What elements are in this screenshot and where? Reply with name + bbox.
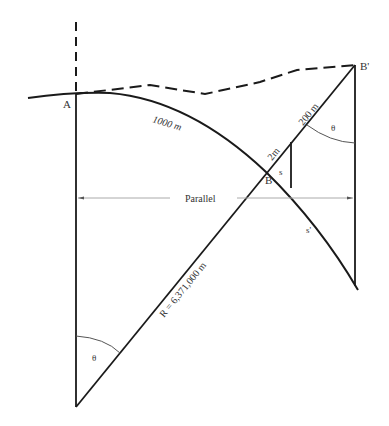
label-parallel: Parallel — [185, 193, 216, 204]
label-point-a: A — [63, 98, 71, 110]
angle-arc-bottom — [76, 336, 120, 353]
label-small-offset: 2m — [265, 145, 282, 162]
geodesy-diagram: A B B' 1000 m 200 m 2m s s' Parallel R =… — [0, 0, 389, 426]
label-angle-top: θ — [331, 123, 335, 133]
label-point-b: B — [265, 174, 272, 186]
label-arc-length: 1000 m — [151, 113, 183, 132]
label-point-b-prime: B' — [360, 60, 369, 72]
label-radius: R = 6,371,000 m — [157, 260, 208, 320]
parallel-arrow-right-icon — [347, 197, 353, 200]
label-angle-bottom: θ — [92, 353, 96, 363]
terrain-dashed-line — [76, 65, 355, 94]
parallel-arrow-left-icon — [78, 197, 84, 200]
label-arc-s-prime: s' — [306, 225, 312, 235]
label-arc-s: s — [279, 167, 283, 177]
